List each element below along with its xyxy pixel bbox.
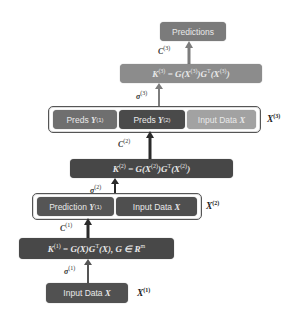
- edge-label-sigma1: σ(1): [64, 265, 75, 276]
- predictions-node: Predictions: [160, 22, 226, 41]
- kernel-k1-node: K(1) = G(X)GT(X), G ∈ Rm: [19, 238, 174, 259]
- predictions-label: Predictions: [172, 27, 214, 37]
- layer3-side-label: X(3): [267, 113, 280, 124]
- layer1-side-label: X(1): [137, 287, 150, 298]
- arrow-sigma3: [154, 83, 164, 107]
- edge-label-sigma3: σ(3): [136, 90, 147, 101]
- k1-formula: K(1) = G(X)GT(X), G ∈ Rm: [48, 243, 145, 254]
- preds-y2-layer3: Preds Y(2): [119, 110, 185, 129]
- edge-label-c1: C(1): [60, 222, 72, 233]
- arrow-c2: [145, 131, 155, 159]
- preds-y1-layer3: Preds Y(1): [53, 110, 117, 129]
- kernel-k3-node: K(3) = G(X(3))GT(X(3)): [120, 64, 262, 83]
- input-data-layer3: Input Data X: [187, 110, 256, 129]
- arrow-c3: [184, 41, 194, 64]
- layer2-side-label: X(2): [206, 200, 219, 211]
- k3-formula: K(3) = G(X(3))GT(X(3)): [152, 68, 229, 79]
- input-data-layer1: Input Data X: [46, 283, 128, 303]
- k2-formula: K(2) = G(X(2))GT(X(2)): [113, 163, 190, 174]
- edge-label-c3: C(3): [158, 45, 170, 56]
- arrow-c1: [83, 218, 93, 238]
- edge-label-c2: C(2): [118, 138, 130, 149]
- prediction-y1-layer2: Prediction Y(1): [37, 197, 114, 216]
- input-data-layer2: Input Data X: [116, 197, 197, 216]
- arrow-sigma1: [83, 259, 93, 283]
- kernel-k2-node: K(2) = G(X(2))GT(X(2)): [70, 159, 233, 178]
